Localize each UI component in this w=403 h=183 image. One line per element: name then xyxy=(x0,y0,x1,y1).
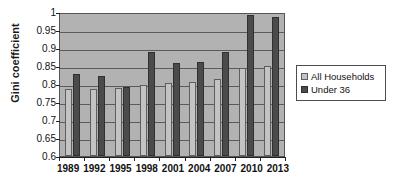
x-axis-tick-label: 2010 xyxy=(239,163,265,177)
bar-under-36-1998 xyxy=(148,52,155,156)
x-axis-tick-mark xyxy=(185,157,186,161)
bar-group xyxy=(110,14,135,156)
bar-under-36-1989 xyxy=(73,74,80,156)
y-axis-tick-label: 0.75 xyxy=(20,98,56,108)
legend-swatch-all-households xyxy=(301,73,308,80)
legend-label: All Households xyxy=(311,71,374,82)
x-axis-tick-label: 2013 xyxy=(265,163,291,177)
y-axis-tick-label: 0.6 xyxy=(20,152,56,162)
y-axis-tick-mark xyxy=(56,49,60,50)
bar-under-36-1992 xyxy=(98,76,105,156)
x-axis-tick-label: 2007 xyxy=(212,163,238,177)
bar-group xyxy=(85,14,110,156)
bar-all-households-1992 xyxy=(90,89,97,156)
bar-group xyxy=(160,14,185,156)
x-axis-tick-mark xyxy=(84,157,85,161)
bar-all-households-2007 xyxy=(214,79,221,156)
x-axis-tick-marks xyxy=(59,157,285,161)
y-axis-tick-mark xyxy=(56,139,60,140)
bar-all-households-1995 xyxy=(115,88,122,156)
x-axis-tick-mark xyxy=(109,157,110,161)
chart-legend: All HouseholdsUnder 36 xyxy=(296,65,386,101)
legend-entry: All Households xyxy=(301,70,381,83)
bar-all-households-2010 xyxy=(239,68,246,156)
x-axis-tick-mark xyxy=(285,157,286,161)
bar-all-households-2004 xyxy=(189,82,196,156)
y-axis-tick-label: 1 xyxy=(20,8,56,18)
gini-coefficient-bar-chart: Gini coefficient 10.950.90.850.80.750.70… xyxy=(0,0,403,183)
x-axis-tick-label: 1995 xyxy=(107,163,133,177)
x-axis-tick-mark xyxy=(210,157,211,161)
bar-group xyxy=(259,14,284,156)
x-axis-tick-label: 2004 xyxy=(186,163,212,177)
x-axis-tick-mark xyxy=(134,157,135,161)
y-axis-tick-label: 0.95 xyxy=(20,26,56,36)
bar-under-36-2001 xyxy=(173,63,180,156)
bar-group xyxy=(184,14,209,156)
y-axis-tick-mark xyxy=(56,157,60,158)
y-axis-tick-mark xyxy=(56,31,60,32)
legend-entry: Under 36 xyxy=(301,83,381,96)
y-axis-tick-label: 0.8 xyxy=(20,80,56,90)
x-axis-tick-label: 1992 xyxy=(81,163,107,177)
bar-under-36-1995 xyxy=(123,87,130,156)
y-axis-tick-mark xyxy=(56,13,60,14)
y-axis-tick-mark xyxy=(56,85,60,86)
bar-under-36-2013 xyxy=(272,17,279,156)
bar-groups xyxy=(60,14,284,156)
bar-all-households-1989 xyxy=(65,89,72,156)
bar-group xyxy=(60,14,85,156)
legend-label: Under 36 xyxy=(311,84,350,95)
x-axis-tick-mark xyxy=(159,157,160,161)
x-axis-tick-labels: 198919921995199820012004200720102013 xyxy=(55,163,291,177)
y-axis-tick-mark xyxy=(56,103,60,104)
y-axis-tick-label: 0.65 xyxy=(20,134,56,144)
y-axis-tick-label: 0.85 xyxy=(20,62,56,72)
bar-group xyxy=(234,14,259,156)
y-axis-tick-mark xyxy=(56,121,60,122)
x-axis-tick-mark xyxy=(260,157,261,161)
y-axis-tick-label: 0.9 xyxy=(20,44,56,54)
bar-group xyxy=(135,14,160,156)
plot-area xyxy=(59,13,285,157)
y-axis-tick-labels: 10.950.90.850.80.750.70.650.6 xyxy=(20,0,56,183)
bar-all-households-2001 xyxy=(165,83,172,156)
legend-swatch-under-36 xyxy=(301,86,308,93)
x-axis-tick-label: 1998 xyxy=(134,163,160,177)
bar-all-households-1998 xyxy=(140,85,147,156)
bar-group xyxy=(209,14,234,156)
y-axis-tick-label: 0.7 xyxy=(20,116,56,126)
x-axis-tick-label: 1989 xyxy=(55,163,81,177)
y-axis-tick-mark xyxy=(56,67,60,68)
bar-under-36-2004 xyxy=(197,62,204,156)
bar-under-36-2007 xyxy=(222,52,229,156)
bar-under-36-2010 xyxy=(247,15,254,156)
x-axis-tick-mark xyxy=(235,157,236,161)
x-axis-tick-label: 2001 xyxy=(160,163,186,177)
bar-all-households-2013 xyxy=(264,66,271,156)
